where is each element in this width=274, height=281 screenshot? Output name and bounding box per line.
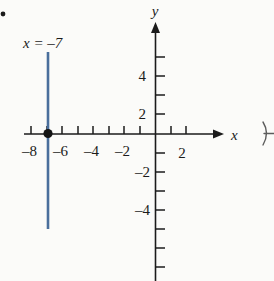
corner-registration-dot	[1, 12, 6, 17]
y-axis-label: y	[150, 3, 159, 19]
x-axis-group	[24, 126, 224, 139]
x-intercept-point	[43, 129, 52, 138]
graph-svg: –8 –6 –4 –2 2 4 2 –2 –4 x y x = –7	[0, 0, 274, 281]
x-axis-label: x	[230, 127, 238, 143]
x-tick-label-neg4: –4	[83, 143, 100, 159]
coordinate-plane-figure: –8 –6 –4 –2 2 4 2 –2 –4 x y x = –7	[0, 0, 274, 281]
x-axis-arrowhead	[213, 130, 224, 139]
y-axis-group	[151, 22, 165, 281]
x-tick-label-neg6: –6	[52, 143, 69, 159]
y-tick-label-neg4: –4	[134, 202, 151, 218]
x-tick-label-2: 2	[178, 145, 186, 161]
x-tick-label-neg8: –8	[21, 143, 37, 159]
equation-annotation: x = –7	[22, 35, 64, 51]
y-tick-label-4: 4	[139, 68, 147, 84]
y-axis-ticks	[156, 57, 166, 267]
x-axis-ticks	[31, 126, 186, 134]
y-tick-label-neg2: –2	[134, 164, 150, 180]
x-tick-label-neg2: –2	[114, 143, 130, 159]
y-axis-arrowhead	[151, 22, 160, 33]
y-tick-label-2: 2	[139, 106, 147, 122]
